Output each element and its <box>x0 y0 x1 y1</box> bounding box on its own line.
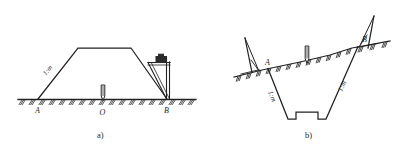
panel-a: 1:m <box>18 48 196 140</box>
ground-hatch-icon <box>19 100 194 105</box>
figure-canvas: 1:m <box>0 0 414 152</box>
level-vial-icon <box>156 54 167 62</box>
caption-a: a) <box>97 130 104 140</box>
ground-hatch-icon-b <box>235 42 388 82</box>
point-label-a-left: A <box>34 106 40 115</box>
stake-icon-b-center <box>305 46 309 64</box>
stake-icon-o <box>101 85 105 101</box>
slope-ratio-label-b-left: 1:m <box>266 90 277 103</box>
point-label-a-center: O <box>100 108 106 117</box>
point-label-b-left: A <box>264 58 270 67</box>
point-label-b-right: B <box>362 35 367 44</box>
point-label-a-right: B <box>164 106 169 115</box>
caption-b: b) <box>305 130 312 140</box>
ranging-pole-icon-a <box>241 38 259 74</box>
ground-line-b <box>234 41 390 82</box>
ground-line-a <box>18 100 196 106</box>
panel-b: 1:m 1:m A B <box>234 16 390 140</box>
slope-ratio-label-b-right: 1:m <box>337 80 349 93</box>
engineering-figure: 1:m <box>0 0 414 152</box>
slope-ratio-label-a: 1:m <box>41 64 54 78</box>
